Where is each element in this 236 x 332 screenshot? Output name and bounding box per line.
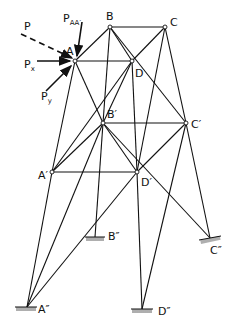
label-D-prime: D′ xyxy=(141,176,152,189)
truss-members xyxy=(27,27,210,309)
label-C: C xyxy=(170,16,178,29)
label-D-dprime: D″ xyxy=(158,305,171,318)
label-Px: Px xyxy=(24,58,35,73)
label-B-prime: B′ xyxy=(107,108,118,121)
truss-svg: A B C D A′ B′ C′ D′ A″ B″ C″ D″ P PAA′ P… xyxy=(0,0,236,332)
label-A-prime: A′ xyxy=(38,169,49,182)
label-P: P xyxy=(24,20,31,33)
label-A-dprime: A″ xyxy=(38,303,50,316)
load-p-dashed-arrow xyxy=(21,34,72,58)
label-C-dprime: C″ xyxy=(210,244,222,257)
label-B: B xyxy=(106,10,114,23)
truss-diagram: A B C D A′ B′ C′ D′ A″ B″ C″ D″ P PAA′ P… xyxy=(0,0,236,332)
label-D: D xyxy=(135,67,143,80)
label-PAA: PAA′ xyxy=(63,12,81,27)
label-B-dprime: B″ xyxy=(108,230,120,243)
label-A: A xyxy=(66,45,74,58)
load-py-arrow xyxy=(46,66,71,91)
load-paa-arrow xyxy=(77,22,82,56)
supports xyxy=(15,236,221,313)
label-C-prime: C′ xyxy=(191,118,202,131)
label-Py: Py xyxy=(41,90,52,105)
